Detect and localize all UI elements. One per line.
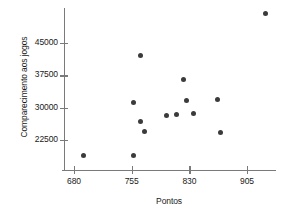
plot-area: 22500300003750045000 680755830905 Pontos…: [0, 0, 293, 216]
data-point: [131, 100, 136, 105]
x-axis-tick-mark: [132, 166, 133, 174]
y-axis-title: Comparecimento aos jogos: [19, 7, 29, 167]
data-point: [81, 153, 86, 158]
x-axis-tick-label: 830: [169, 177, 209, 186]
y-axis-tick-mark: [60, 140, 68, 141]
x-axis-tick-label: 755: [112, 177, 152, 186]
data-point: [142, 129, 147, 134]
y-axis-tick-mark: [60, 43, 68, 44]
y-axis-line: [64, 8, 65, 170]
data-point: [215, 97, 220, 102]
x-axis-line: [62, 170, 276, 171]
x-axis-title: Pontos: [62, 196, 276, 206]
data-point: [181, 77, 186, 82]
data-point: [218, 130, 223, 135]
data-point: [131, 153, 136, 158]
x-axis-tick-mark: [247, 166, 248, 174]
x-axis-tick-label: 680: [54, 177, 94, 186]
scatter-plot-figure: 22500300003750045000 680755830905 Pontos…: [0, 0, 293, 216]
y-axis-tick-mark: [60, 75, 68, 76]
x-axis-tick-label: 905: [227, 177, 267, 186]
data-point: [184, 98, 189, 103]
data-point: [263, 11, 268, 16]
data-point: [174, 112, 179, 117]
x-axis-tick-mark: [189, 166, 190, 174]
data-point: [164, 113, 169, 118]
data-point: [138, 119, 143, 124]
data-point: [138, 53, 143, 58]
data-point: [191, 111, 196, 116]
y-axis-tick-mark: [60, 108, 68, 109]
x-axis-tick-mark: [74, 166, 75, 174]
